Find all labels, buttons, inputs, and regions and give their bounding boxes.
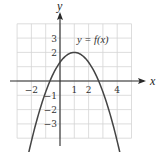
x-tick-label: 1 bbox=[71, 85, 77, 95]
axes bbox=[10, 12, 146, 146]
x-axis-label: x bbox=[149, 74, 156, 88]
y-axis-label: y bbox=[56, 0, 63, 13]
y-tick-label: −2 bbox=[44, 105, 57, 115]
x-tick-label: 4 bbox=[114, 85, 120, 95]
x-tick-labels: −2124 bbox=[25, 85, 121, 95]
y-tick-label: −1 bbox=[44, 91, 57, 101]
y-tick-label: 3 bbox=[51, 34, 57, 44]
y-tick-label: 2 bbox=[51, 48, 57, 58]
parabola-chart: −2124 32−1−2−3 x y y = f(x) bbox=[0, 0, 161, 152]
function-label: y = f(x) bbox=[76, 34, 109, 46]
x-tick-label: 2 bbox=[86, 85, 92, 95]
x-tick-label: −2 bbox=[25, 85, 38, 95]
plot-svg: −2124 32−1−2−3 x y y = f(x) bbox=[0, 0, 161, 152]
y-tick-label: −3 bbox=[44, 119, 58, 129]
